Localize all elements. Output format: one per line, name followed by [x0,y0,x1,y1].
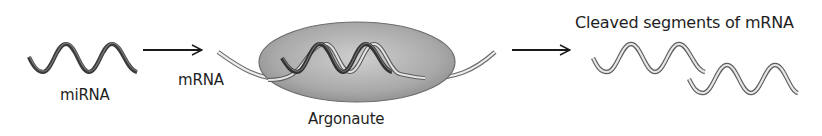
argonaute-protein-icon [259,22,455,102]
mrna-label: mRNA [178,71,224,89]
cleaved-segments-label: Cleaved segments of mRNA [575,13,794,32]
cleaved-segment-2-icon [689,65,798,93]
cleaved-segment-1-icon [593,44,705,72]
diagram-canvas: miRNA mRNA Argonaute Cleaved segments of… [0,0,822,136]
mirna-strand-icon [29,43,138,72]
argonaute-label: Argonaute [308,110,384,128]
mirna-label: miRNA [60,86,110,104]
